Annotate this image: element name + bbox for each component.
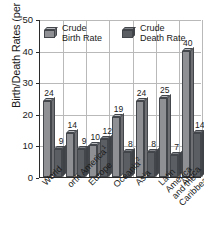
bar-chart: Birth/Death Rates (per 1000 population) … bbox=[0, 0, 204, 235]
bar-birth-rate bbox=[159, 98, 167, 177]
value-label-birth: 24 bbox=[133, 89, 151, 97]
bar-group: 248 bbox=[133, 20, 156, 177]
legend-label-birth: Crude Birth Rate bbox=[62, 24, 102, 43]
bar-group: 257 bbox=[156, 20, 179, 177]
value-label-birth: 19 bbox=[109, 105, 127, 113]
legend-item-crude-birth-rate: Crude Birth Rate bbox=[44, 24, 102, 43]
bar-group: 249 bbox=[40, 20, 63, 177]
y-tick-label-50: 50 bbox=[11, 15, 33, 24]
legend: Crude Birth Rate Crude Death Rate bbox=[44, 24, 186, 43]
bar-group: 198 bbox=[109, 20, 132, 177]
birth-rate-swatch-icon bbox=[44, 27, 57, 38]
bar-birth-rate bbox=[112, 117, 120, 177]
value-label-death: 14 bbox=[191, 121, 204, 129]
bar-birth-rate bbox=[43, 101, 51, 177]
value-label-birth: 24 bbox=[40, 89, 58, 97]
value-label-birth: 25 bbox=[156, 86, 174, 94]
value-label-birth: 14 bbox=[63, 121, 81, 129]
legend-label-death: Crude Death Rate bbox=[140, 24, 186, 43]
bar-group: 149 bbox=[63, 20, 86, 177]
death-rate-swatch-icon bbox=[122, 27, 135, 38]
y-tick-label-0: 0 bbox=[11, 173, 33, 182]
y-tick-label-40: 40 bbox=[11, 47, 33, 56]
y-tick-label-30: 30 bbox=[11, 78, 33, 87]
plot-area: 24914910121982482574014 bbox=[39, 20, 201, 178]
legend-item-crude-death-rate: Crude Death Rate bbox=[122, 24, 186, 43]
y-tick-label-20: 20 bbox=[11, 110, 33, 119]
y-tick-mark bbox=[36, 178, 39, 179]
y-tick-label-10: 10 bbox=[11, 141, 33, 150]
